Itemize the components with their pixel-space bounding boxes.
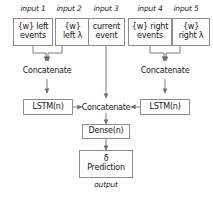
input-box-5-line2: right λ — [179, 32, 204, 41]
input-box-1-line2: events — [20, 32, 46, 41]
prediction-box[interactable]: δ Prediction — [79, 150, 133, 178]
arrow-input4-to-merge-right — [150, 46, 164, 61]
arrow-input1-to-merge-left — [33, 46, 46, 61]
architecture-diagram: input 1 input 2 input 3 input 4 input 5 … — [0, 0, 213, 198]
arrow-input5-to-merge-right — [166, 46, 180, 61]
input-box-3[interactable]: current event — [88, 18, 125, 46]
input-box-2-line2: left λ — [63, 32, 82, 41]
lstm-right-box[interactable]: LSTM(n) — [140, 99, 190, 115]
input-label-5: input 5 — [163, 4, 209, 13]
merge-right-label: Concatenate — [130, 66, 200, 75]
input-box-4[interactable]: {w} right events — [128, 18, 172, 46]
merge-center-label: Concatenate — [71, 103, 141, 112]
arrow-input2-to-merge-left — [48, 46, 62, 61]
merge-left-label: Concatenate — [12, 66, 82, 75]
input-box-4-line2: events — [137, 32, 163, 41]
dense-box[interactable]: Dense(n) — [82, 124, 130, 139]
lstm-left-box[interactable]: LSTM(n) — [23, 99, 73, 115]
output-label: output — [79, 180, 133, 189]
prediction-label: Prediction — [87, 164, 125, 173]
input-box-3-line2: event — [96, 32, 118, 41]
input-box-1[interactable]: {w} left events — [13, 18, 53, 46]
input-box-2[interactable]: {w} left λ — [55, 18, 90, 46]
input-box-5[interactable]: {w} right λ — [172, 18, 210, 46]
input-label-3: input 3 — [83, 4, 129, 13]
